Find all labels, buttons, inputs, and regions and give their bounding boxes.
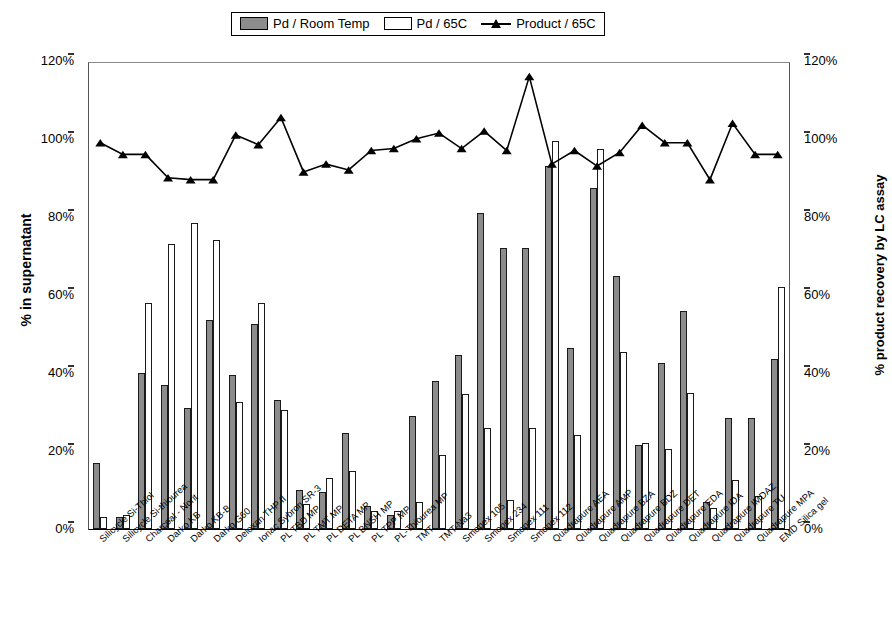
bar-pd-room-temp	[545, 166, 552, 529]
bar-group	[518, 63, 541, 529]
bar-group	[608, 63, 631, 529]
bar-groups	[89, 63, 789, 529]
right-axis-tick-label: 20%	[804, 443, 830, 458]
bar-group	[337, 63, 360, 529]
bar-group	[541, 63, 564, 529]
legend-item-pd-65c: Pd / 65C	[384, 16, 468, 31]
legend-label-pd-65c: Pd / 65C	[417, 16, 468, 31]
bar-pd-room-temp	[613, 276, 620, 530]
bar-pd-room-temp	[522, 248, 529, 529]
bar-group	[744, 63, 767, 529]
bar-group	[247, 63, 270, 529]
bar-group	[676, 63, 699, 529]
right-axis-tick-label: 80%	[804, 209, 830, 224]
bar-group	[179, 63, 202, 529]
right-axis-tick-label: 40%	[804, 365, 830, 380]
right-axis-tick-label: 100%	[804, 131, 837, 146]
bar-group	[428, 63, 451, 529]
chart-root: Pd / Room Temp Pd / 65C Product / 65C % …	[0, 0, 892, 632]
bar-group	[224, 63, 247, 529]
bar-group	[270, 63, 293, 529]
bar-group	[473, 63, 496, 529]
bar-pd-room-temp	[590, 188, 597, 529]
bar-group	[405, 63, 428, 529]
bar-group	[653, 63, 676, 529]
bar-group	[383, 63, 406, 529]
left-axis-tick-label: 100%	[41, 131, 74, 146]
bar-pd-room-temp	[93, 463, 100, 529]
bar-pd-room-temp	[229, 375, 236, 529]
left-axis-tick-label: 60%	[48, 287, 74, 302]
legend-label-product-65c: Product / 65C	[516, 16, 596, 31]
left-axis-tick-label: 120%	[41, 53, 74, 68]
bar-group	[89, 63, 112, 529]
bar-group	[450, 63, 473, 529]
legend-swatch-filled-icon	[240, 17, 268, 30]
bar-pd-room-temp	[500, 248, 507, 529]
legend-item-product-65c: Product / 65C	[481, 16, 596, 31]
bar-pd-65c	[191, 223, 198, 529]
right-axis-title: % product recovery by LC assay	[872, 110, 892, 440]
left-axis-ticks: 0%20%40%60%80%100%120%	[0, 62, 82, 530]
bar-group	[631, 63, 654, 529]
bar-pd-65c	[462, 394, 469, 529]
bar-group	[292, 63, 315, 529]
bar-group	[157, 63, 180, 529]
bar-group	[766, 63, 789, 529]
plot-area	[88, 62, 790, 530]
category-axis-labels: Silicycle Si-ThiolSilicycle Si-thioureaC…	[88, 530, 790, 630]
bar-pd-room-temp	[455, 355, 462, 529]
bar-pd-room-temp	[251, 324, 258, 529]
bar-pd-65c	[213, 240, 220, 529]
bar-group	[699, 63, 722, 529]
bar-pd-room-temp	[206, 320, 213, 529]
bar-pd-65c	[258, 303, 265, 529]
bar-pd-65c	[552, 141, 559, 529]
right-axis-tick-label: 120%	[804, 53, 837, 68]
left-axis-tick-label: 80%	[48, 209, 74, 224]
left-axis-tick-label: 0%	[55, 521, 74, 536]
right-axis-ticks: 0%20%40%60%80%100%120%	[796, 62, 866, 530]
legend-label-pd-room-temp: Pd / Room Temp	[273, 16, 370, 31]
bar-group	[202, 63, 225, 529]
bar-group	[563, 63, 586, 529]
legend-line-triangle-icon	[481, 18, 511, 29]
bar-group	[495, 63, 518, 529]
bar-group	[112, 63, 135, 529]
legend-swatch-empty-icon	[384, 17, 412, 30]
left-axis-tick-label: 40%	[48, 365, 74, 380]
bar-pd-room-temp	[477, 213, 484, 529]
bar-group	[134, 63, 157, 529]
bar-group	[315, 63, 338, 529]
bar-group	[721, 63, 744, 529]
left-axis-tick-label: 20%	[48, 443, 74, 458]
right-axis-tick-label: 60%	[804, 287, 830, 302]
bar-pd-65c	[597, 149, 604, 529]
chart-legend: Pd / Room Temp Pd / 65C Product / 65C	[231, 12, 605, 36]
bar-group	[360, 63, 383, 529]
legend-item-pd-room-temp: Pd / Room Temp	[240, 16, 370, 31]
bar-group	[586, 63, 609, 529]
